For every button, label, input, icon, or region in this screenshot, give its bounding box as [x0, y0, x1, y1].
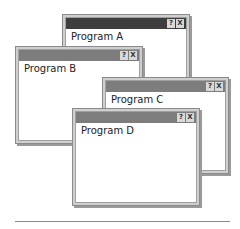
close-button[interactable]: X — [215, 82, 223, 91]
window-title-text: Program C — [111, 94, 163, 105]
help-button[interactable]: ? — [120, 51, 128, 60]
divider-line — [15, 221, 230, 222]
help-button[interactable]: ? — [167, 19, 175, 28]
close-button[interactable]: X — [186, 113, 194, 122]
window-title-text: Program A — [71, 31, 123, 42]
close-button[interactable]: X — [176, 19, 184, 28]
window-program-d[interactable]: ? X Program D — [72, 108, 200, 206]
window-title-text: Program B — [24, 63, 76, 74]
titlebar[interactable]: ? X — [106, 81, 225, 92]
titlebar[interactable]: ? X — [66, 18, 186, 29]
window-frame: ? X Program D — [75, 111, 197, 203]
window-title-text: Program D — [81, 125, 134, 136]
close-button[interactable]: X — [129, 51, 137, 60]
titlebar[interactable]: ? X — [76, 112, 196, 123]
titlebar[interactable]: ? X — [19, 50, 139, 61]
help-button[interactable]: ? — [177, 113, 185, 122]
help-button[interactable]: ? — [206, 82, 214, 91]
